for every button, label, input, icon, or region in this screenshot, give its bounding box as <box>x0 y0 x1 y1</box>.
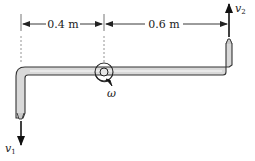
v2-label: v2 <box>235 2 246 16</box>
dimension-label-right: 0.6 m <box>148 18 180 31</box>
dimension-label-left: 0.4 m <box>47 18 79 31</box>
pivot-inner-circle <box>100 68 108 76</box>
pipe <box>16 39 232 119</box>
omega-label: ω <box>107 87 116 100</box>
sprinkler-diagram: 0.4 m 0.6 m ω v1 v2 <box>0 0 255 161</box>
dimension-0-6m: 0.6 m <box>106 18 227 31</box>
v1-label: v1 <box>5 142 16 156</box>
dimension-0-4m: 0.4 m <box>23 18 102 31</box>
velocity-v1: v1 <box>5 121 21 156</box>
velocity-v2: v2 <box>229 2 246 37</box>
right-nozzle <box>226 39 232 44</box>
pipe-body <box>16 40 232 118</box>
